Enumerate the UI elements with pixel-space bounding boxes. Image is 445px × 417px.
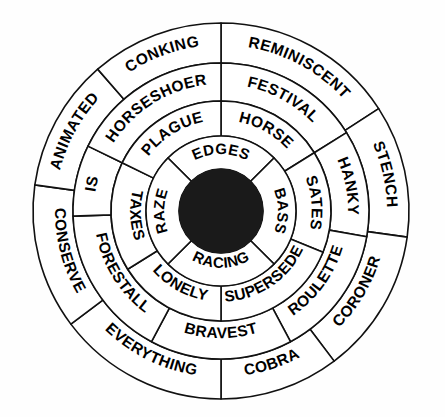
- hub-disc: [179, 169, 263, 253]
- word-wheel-figure: REMINISCENTSTENCHCORONERCOBRAEVERYTHINGC…: [0, 0, 445, 417]
- word-wheel-svg: REMINISCENTSTENCHCORONERCOBRAEVERYTHINGC…: [0, 0, 445, 417]
